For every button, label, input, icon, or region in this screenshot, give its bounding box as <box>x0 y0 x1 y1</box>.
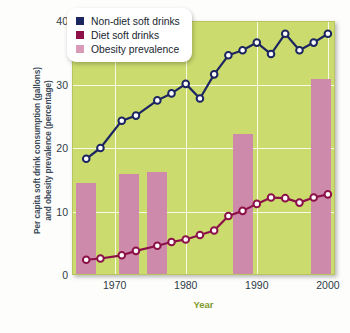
x-axis-title: Year <box>72 299 335 310</box>
data-point-marker <box>239 47 246 54</box>
data-point-marker <box>296 199 303 206</box>
x-axis-tick-labels: 1970198019902000 <box>72 279 335 295</box>
x-tick-label: 2000 <box>316 279 339 291</box>
y-tick-label: 10 <box>42 206 68 218</box>
legend-label: Diet soft drinks <box>91 30 159 41</box>
data-point-marker <box>254 39 261 46</box>
data-point-marker <box>133 112 140 119</box>
legend-item: Diet soft drinks <box>76 28 180 42</box>
y-tick-label: 20 <box>42 142 68 154</box>
data-point-marker <box>154 97 161 104</box>
data-point-marker <box>97 255 104 262</box>
data-point-marker <box>268 51 275 58</box>
data-point-marker <box>310 39 317 46</box>
data-point-marker <box>197 95 204 102</box>
data-point-marker <box>325 191 332 198</box>
data-point-marker <box>118 252 125 259</box>
data-point-marker <box>268 194 275 201</box>
data-point-marker <box>211 71 218 78</box>
data-point-marker <box>310 194 317 201</box>
data-point-marker <box>211 227 218 234</box>
data-point-marker <box>83 156 90 163</box>
chart-figure: Per capita soft drink consumption (gallo… <box>0 0 350 333</box>
y-tick-label: 0 <box>42 269 68 281</box>
data-point-marker <box>182 236 189 243</box>
y-tick-label: 30 <box>42 79 68 91</box>
data-point-marker <box>133 248 140 255</box>
legend-swatch-diet-icon <box>76 31 84 39</box>
data-point-marker <box>118 117 125 124</box>
x-tick-label: 1970 <box>103 279 126 291</box>
chart-legend: Non-diet soft drinks Diet soft drinks Ob… <box>67 8 192 62</box>
data-point-marker <box>225 213 232 220</box>
series-line <box>86 194 328 259</box>
legend-item: Obesity prevalence <box>76 42 180 56</box>
y-tick-label: 40 <box>42 15 68 27</box>
data-point-marker <box>296 47 303 54</box>
legend-item: Non-diet soft drinks <box>76 14 180 28</box>
data-point-marker <box>282 195 289 202</box>
y-axis-tick-labels: 010203040 <box>22 0 68 333</box>
legend-label: Obesity prevalence <box>91 44 179 55</box>
data-point-marker <box>254 201 261 208</box>
data-point-marker <box>97 145 104 152</box>
data-point-marker <box>197 232 204 239</box>
legend-swatch-obesity-icon <box>76 45 84 53</box>
data-point-marker <box>239 208 246 215</box>
data-point-marker <box>154 242 161 249</box>
x-tick-label: 1990 <box>245 279 268 291</box>
data-point-marker <box>225 52 232 59</box>
data-point-marker <box>282 30 289 37</box>
legend-swatch-non-diet-icon <box>76 17 84 25</box>
legend-label: Non-diet soft drinks <box>91 16 180 27</box>
data-point-marker <box>83 256 90 263</box>
x-tick-label: 1980 <box>174 279 197 291</box>
data-point-marker <box>182 81 189 88</box>
data-point-marker <box>168 239 175 246</box>
data-point-marker <box>168 90 175 97</box>
data-point-marker <box>325 30 332 37</box>
